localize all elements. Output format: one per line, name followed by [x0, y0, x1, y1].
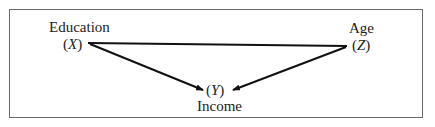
edge-age-income: [233, 47, 346, 90]
paren-close: ): [219, 82, 224, 98]
variable-x: X: [68, 36, 77, 52]
node-education-symbol: (X): [63, 36, 82, 53]
edge-education-income: [90, 44, 203, 90]
paren-close: ): [365, 37, 370, 53]
node-age-symbol: (Z): [352, 37, 370, 54]
edge-education-age: [88, 43, 347, 46]
node-age-label: Age: [349, 20, 374, 37]
paren-close: ): [77, 36, 82, 52]
node-income-symbol: (Y): [206, 82, 224, 99]
node-education-label: Education: [49, 19, 110, 36]
node-income-label: Income: [197, 98, 242, 115]
